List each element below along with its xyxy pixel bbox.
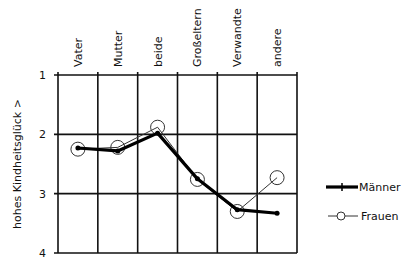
series-maenner-marker	[155, 131, 160, 136]
series-maenner-marker	[195, 176, 200, 181]
legend-maenner-label: Männer	[359, 181, 401, 194]
series-maenner-marker	[115, 148, 120, 153]
category-label: andere	[271, 28, 284, 67]
legend-frauen-marker	[337, 212, 345, 220]
y-tick-label: 1	[39, 69, 46, 82]
legend-frauen-label: Frauen	[361, 210, 399, 223]
y-tick-label: 4	[39, 247, 46, 260]
series-maenner-marker	[275, 211, 280, 216]
category-label: Mutter	[112, 30, 125, 67]
series-maenner-marker	[75, 145, 80, 150]
category-label: Großeltern	[191, 8, 204, 67]
y-tick-label: 3	[39, 188, 46, 201]
category-label: Verwandte	[231, 8, 244, 67]
category-label: Vater	[72, 38, 85, 67]
y-tick-label: 2	[39, 128, 46, 141]
category-label: beide	[152, 36, 165, 67]
series-maenner-marker	[235, 207, 240, 212]
chart: 1234VaterMutterbeideGroßelternVerwandtea…	[0, 0, 418, 268]
y-axis-label: hohes Kindheitsglück >	[11, 99, 24, 229]
